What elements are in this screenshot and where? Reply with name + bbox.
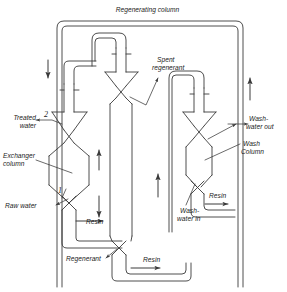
label-resin-center: Resin xyxy=(143,256,160,264)
label-exchanger-column-line1: Exchanger xyxy=(3,152,35,160)
label-spent-regenerant-line1: Spent xyxy=(157,56,174,64)
label-treated-water-line2: water xyxy=(0,122,36,130)
callout-number-raw-water: 1 xyxy=(58,186,62,195)
diagram-title: Regenerating column xyxy=(95,6,200,14)
label-raw-water: Raw water xyxy=(5,202,37,210)
label-exchanger-column-line2: column xyxy=(3,160,25,168)
label-treated-water-line1: Treated xyxy=(0,114,36,122)
label-wash-column-line1: Wash xyxy=(243,140,260,148)
exchanger-column-shell xyxy=(49,84,89,210)
label-regenerant: Regenerant xyxy=(66,255,101,263)
label-wash-water-out-line2: water out xyxy=(246,123,274,131)
process-flow-diagram: Regenerating column Spent regenerant Tre… xyxy=(0,0,287,292)
callout-number-treated-water: 2 xyxy=(44,110,48,119)
label-resin-right: Resin xyxy=(209,192,226,200)
column-feed-pipes xyxy=(64,33,204,232)
wash-column-shell xyxy=(183,88,216,194)
flow-arrow-group xyxy=(48,60,250,268)
regenerating-column-shell xyxy=(105,48,138,255)
label-resin-left: Resin xyxy=(86,218,103,226)
label-wash-column-line2: Column xyxy=(241,148,264,156)
label-wash-water-in-line2: water in xyxy=(177,215,201,223)
label-wash-water-out-line1: Wash- xyxy=(249,115,268,123)
callout-leaders xyxy=(36,78,248,258)
label-spent-regenerant-line2: regenerant xyxy=(152,64,184,72)
label-wash-water-in-line1: Wash- xyxy=(180,207,199,215)
